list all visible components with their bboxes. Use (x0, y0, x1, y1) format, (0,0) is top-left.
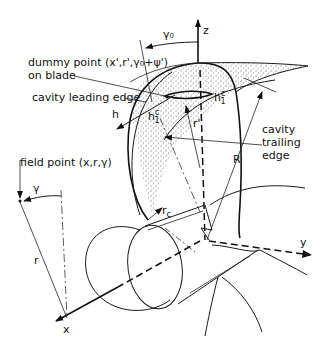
gamma0-label: γ₀ (163, 28, 175, 41)
cavity-leading-edge-label: cavity leading edge (32, 91, 140, 104)
cavity-trailing-edge-label-line1: cavity (262, 123, 296, 136)
lower-blade-right-edge (222, 277, 262, 332)
h1c-left-label: hc1 (148, 108, 159, 125)
lower-blade-left-edge (205, 277, 218, 336)
lower-blade-curve-right (210, 186, 305, 205)
dummy-point-marker (165, 95, 168, 98)
h1c-right-label: hc1 (214, 89, 225, 106)
diagram-canvas: z γ₀ dummy point (x',r',γ₀+ψ') on blade … (0, 0, 325, 353)
hub-rear-notch (201, 205, 212, 240)
hub-bottom-edge-inner (190, 256, 250, 293)
hub-top-edge (145, 205, 205, 226)
R-radius-arrow (207, 92, 262, 240)
gamma0-arc (146, 42, 198, 48)
dummy-point-label-line1: dummy point (x',r',γ₀+ψ') (28, 56, 168, 69)
r-radius-line (20, 202, 67, 318)
R-label: R (233, 153, 241, 166)
r-prime-label: r' (193, 117, 201, 130)
h-label: h (112, 108, 119, 121)
gamma-label: γ (33, 182, 40, 195)
cavity-trailing-edge-label-line3: edge (262, 149, 290, 162)
r-c-arrow (148, 208, 162, 220)
cavity-trailing-edge-leader (165, 137, 262, 145)
hub-top-edge-inner (148, 211, 203, 230)
x-axis-dashed (118, 241, 200, 287)
x-axis (56, 287, 118, 321)
field-point-label: field point (x,r,γ) (20, 156, 112, 169)
y-axis-label: y (300, 236, 307, 249)
dummy-point-label-line2: on blade (28, 69, 76, 82)
hub-cylinder (122, 205, 258, 312)
hub-dashdot (165, 228, 195, 252)
r-c-label: rc (162, 204, 171, 219)
r-label: r (34, 254, 39, 267)
cavity-trailing-edge-label-line2: trailing (262, 136, 301, 149)
x-axis-label: x (63, 323, 70, 336)
z-axis-label: z (203, 24, 209, 37)
gamma-arc (24, 196, 61, 201)
y-axis-arrowhead (302, 250, 312, 258)
propeller-cavity-diagram: z γ₀ dummy point (x',r',γ₀+ψ') on blade … (0, 0, 325, 353)
gamma-reference-line (61, 190, 67, 318)
y-axis (209, 241, 310, 255)
hub-front-ellipse (122, 222, 187, 313)
